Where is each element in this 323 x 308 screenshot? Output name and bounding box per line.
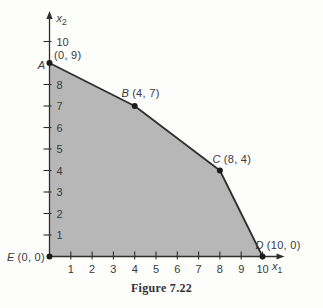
y-tick-label: 5 bbox=[57, 143, 63, 155]
vertex-dot-D bbox=[260, 254, 266, 260]
vertex-label-E: E(0, 0) bbox=[7, 251, 45, 263]
y-tick-label: 1 bbox=[57, 229, 63, 241]
x-tick-label: 8 bbox=[217, 263, 223, 275]
x-tick-label: 3 bbox=[110, 263, 116, 275]
vertex-dot-A bbox=[47, 60, 53, 66]
vertex-coords-A: (0, 9) bbox=[54, 49, 81, 61]
y-tick-label: 7 bbox=[57, 100, 63, 112]
y-axis-arrow-icon bbox=[46, 11, 52, 19]
vertex-dot-E bbox=[47, 254, 53, 260]
vertex-letter-A: A bbox=[37, 59, 45, 71]
y-tick-label: 6 bbox=[57, 122, 63, 134]
y-tick-label: 8 bbox=[57, 79, 63, 91]
x-tick-label: 1 bbox=[68, 263, 74, 275]
vertex-dot-C bbox=[217, 168, 223, 174]
x-axis-label: x1 bbox=[271, 260, 283, 275]
vertex-dot-B bbox=[132, 103, 138, 109]
x-tick-label: 2 bbox=[89, 263, 95, 275]
x-tick-label: 10 bbox=[256, 263, 268, 275]
x-tick-label: 5 bbox=[153, 263, 159, 275]
y-tick-label: 10 bbox=[57, 36, 69, 48]
x-tick-label: 4 bbox=[132, 263, 138, 275]
y-tick-label: 2 bbox=[57, 208, 63, 220]
vertex-label-D: D(10, 0) bbox=[256, 239, 301, 251]
x-tick-label: 7 bbox=[196, 263, 202, 275]
x-axis-arrow-icon bbox=[277, 253, 285, 259]
y-axis-label: x2 bbox=[56, 12, 68, 27]
y-tick-label: 3 bbox=[57, 186, 63, 198]
x-tick-label: 6 bbox=[174, 263, 180, 275]
figure-caption: Figure 7.22 bbox=[0, 281, 323, 296]
y-tick-label: 4 bbox=[57, 165, 63, 177]
figure-722: 123456789101234567810x1x2A(0, 9)B(4, 7)C… bbox=[0, 0, 323, 308]
x-tick-label: 9 bbox=[238, 263, 244, 275]
figure-canvas: 123456789101234567810x1x2A(0, 9)B(4, 7)C… bbox=[0, 0, 323, 280]
vertex-label-B: B(4, 7) bbox=[122, 87, 160, 99]
vertex-label-C: C(8, 4) bbox=[213, 153, 252, 165]
